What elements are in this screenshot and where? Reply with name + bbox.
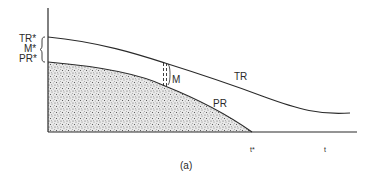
margin-brace-icon (168, 64, 170, 85)
pr-curve-label: PR (213, 98, 227, 109)
pr-shaded-area (48, 62, 252, 132)
brace-icon (40, 37, 45, 62)
t-star-label: t* (250, 146, 255, 153)
margin-label: M (172, 74, 180, 85)
figure-caption: (a) (180, 160, 192, 171)
t-label: t (324, 146, 326, 153)
pr-star-label: PR* (19, 53, 37, 64)
tr-curve-label: TR (234, 71, 247, 82)
diagram-canvas: TR* M* PR* M TR PR t* t (a) (0, 0, 372, 177)
